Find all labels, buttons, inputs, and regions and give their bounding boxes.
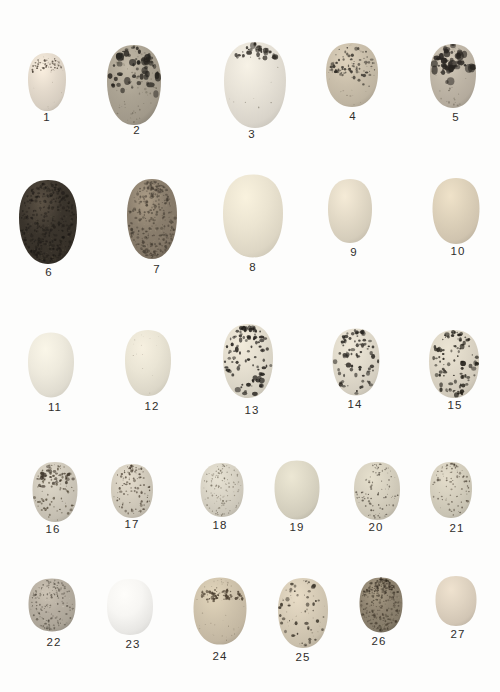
egg-figure-17: 17 [111, 464, 153, 530]
egg-figure-23: 23 [107, 579, 153, 650]
egg-number-label: 24 [213, 650, 228, 662]
egg-body [433, 178, 480, 244]
egg-figure-9: 9 [328, 179, 372, 258]
egg-plate: 1234567891011121314151617181920212223242… [0, 0, 500, 692]
egg-body [354, 462, 400, 520]
egg-body [201, 463, 244, 517]
egg-number-label: 26 [372, 635, 387, 647]
egg-body [223, 175, 283, 258]
plate-svg: 1234567891011121314151617181920212223242… [0, 0, 500, 692]
egg-figure-1: 1 [28, 53, 66, 123]
egg-figure-14: 14 [333, 329, 380, 411]
egg-body [107, 579, 153, 635]
egg-body [28, 333, 74, 398]
egg-number-label: 11 [48, 401, 62, 413]
egg-number-label: 9 [350, 246, 357, 258]
egg-figure-6: 6 [19, 180, 77, 278]
egg-figure-19: 19 [275, 461, 320, 534]
egg-figure-16: 16 [33, 462, 78, 535]
egg-figure-18: 18 [201, 463, 244, 531]
egg-number-label: 25 [296, 651, 311, 663]
egg-figure-11: 11 [28, 333, 74, 414]
egg-figure-8: 8 [223, 175, 283, 274]
egg-number-label: 12 [145, 400, 160, 412]
egg-figure-5: 5 [430, 42, 476, 123]
egg-figure-2: 2 [107, 45, 161, 136]
egg-body [125, 330, 171, 396]
egg-number-label: 6 [45, 266, 52, 278]
egg-figure-22: 22 [29, 579, 76, 649]
egg-body [430, 44, 476, 108]
egg-number-label: 19 [290, 521, 305, 533]
egg-number-label: 18 [213, 519, 228, 531]
egg-body [29, 579, 76, 632]
egg-body [19, 180, 77, 264]
egg-body [28, 53, 66, 111]
egg-body [278, 578, 328, 648]
egg-number-label: 14 [348, 398, 363, 410]
egg-figure-26: 26 [360, 575, 403, 647]
egg-figure-10: 10 [433, 178, 480, 257]
egg-number-label: 1 [43, 111, 50, 123]
egg-body [328, 179, 372, 243]
egg-figure-21: 21 [430, 462, 472, 534]
egg-number-label: 10 [451, 245, 466, 257]
egg-number-label: 16 [46, 523, 61, 535]
egg-figure-24: 24 [194, 578, 247, 663]
egg-figure-27: 27 [436, 576, 477, 640]
egg-body [436, 576, 477, 626]
egg-number-label: 4 [349, 110, 356, 122]
egg-figure-7: 7 [127, 179, 177, 275]
egg-figure-13: 13 [223, 324, 273, 416]
egg-body [275, 461, 320, 520]
egg-number-label: 23 [126, 638, 141, 650]
egg-number-label: 5 [452, 111, 459, 123]
egg-number-label: 13 [245, 404, 260, 416]
egg-number-label: 21 [450, 522, 465, 534]
egg-number-label: 3 [248, 128, 255, 140]
egg-number-label: 7 [153, 263, 160, 275]
egg-figure-15: 15 [429, 330, 479, 411]
page: { "page": { "background": "#fdfdfc", "la… [0, 0, 500, 692]
egg-number-label: 20 [369, 521, 384, 533]
egg-figure-4: 4 [326, 43, 378, 122]
egg-figure-20: 20 [354, 462, 400, 533]
egg-figure-3: 3 [224, 42, 286, 140]
egg-number-label: 15 [448, 399, 463, 411]
egg-number-label: 8 [249, 261, 256, 273]
egg-number-label: 2 [133, 124, 140, 136]
egg-figure-25: 25 [278, 578, 328, 663]
egg-number-label: 17 [125, 518, 140, 530]
egg-number-label: 22 [47, 636, 62, 648]
egg-body [194, 578, 247, 645]
egg-figure-12: 12 [125, 330, 171, 412]
egg-number-label: 27 [451, 628, 466, 640]
